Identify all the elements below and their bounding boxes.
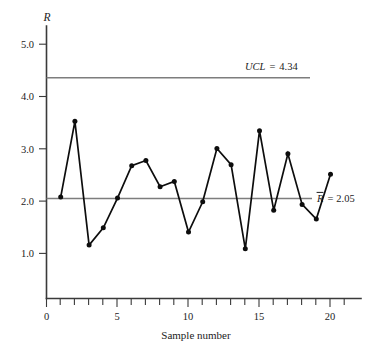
rbar-label-value: 2.05 [336, 193, 354, 204]
y-tick-label-3: 3.0 [21, 144, 34, 155]
data-point [243, 246, 248, 251]
data-point [101, 225, 106, 230]
y-tick-label-2: 2.0 [21, 196, 34, 207]
data-point [87, 243, 92, 248]
y-axis-ticks: 5.0 4.0 3.0 2.0 1.0 [21, 39, 47, 259]
x-tick-label-0: 0 [44, 311, 49, 322]
data-point [200, 199, 205, 204]
ucl-label-value: 4.34 [279, 61, 298, 72]
data-point [72, 119, 77, 124]
data-point [115, 196, 120, 201]
data-point [214, 146, 219, 151]
y-tick-label-4: 4.0 [21, 91, 34, 102]
y-axis-title: R [42, 11, 50, 23]
y-tick-label-5: 5.0 [21, 39, 34, 50]
x-axis-title: Sample number [161, 329, 231, 341]
data-point [257, 128, 262, 133]
chart-axes [47, 26, 362, 299]
data-point [172, 179, 177, 184]
x-tick-label-5: 5 [114, 311, 119, 322]
data-point [285, 151, 290, 156]
range-control-chart: 5.0 4.0 3.0 2.0 1.0 R [0, 0, 366, 355]
y-tick-label-1: 1.0 [21, 248, 34, 259]
data-point [58, 195, 63, 200]
ucl-label-prefix: UCL [245, 61, 266, 72]
x-tick-label-10: 10 [183, 311, 194, 322]
data-point [143, 158, 148, 163]
data-point [328, 172, 333, 177]
x-tick-label-15: 15 [254, 311, 265, 322]
data-point [186, 230, 191, 235]
data-point [314, 217, 319, 222]
series-polyline [61, 121, 331, 249]
ucl-label: UCL=4.34 [245, 61, 298, 72]
data-point [271, 208, 276, 213]
data-series-group [58, 119, 333, 252]
data-point [158, 184, 163, 189]
rbar-label-equals: = [327, 193, 333, 204]
data-point [300, 202, 305, 207]
x-tick-label-20: 20 [325, 311, 336, 322]
data-point [229, 162, 234, 167]
x-axis-minor-ticks [60, 299, 344, 306]
x-axis-major-ticks: 0 5 10 15 20 [44, 299, 335, 323]
control-chart-svg: 5.0 4.0 3.0 2.0 1.0 R [0, 0, 366, 355]
ucl-label-equals: = [269, 61, 275, 72]
data-point [129, 163, 134, 168]
